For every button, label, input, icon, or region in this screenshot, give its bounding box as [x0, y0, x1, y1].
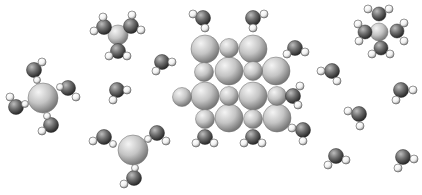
large-ion-sphere	[239, 35, 267, 63]
hydrogen-atom	[72, 93, 80, 101]
oxygen-atom	[196, 11, 211, 26]
hydrogen-atom	[38, 127, 46, 135]
hydrogen-atom	[44, 113, 51, 120]
small-ion-sphere	[173, 88, 192, 107]
hydrogen-atom	[34, 77, 41, 84]
hydrogen-atom	[132, 165, 139, 172]
molecule-scene	[0, 0, 422, 195]
hydrogen-atom	[38, 58, 46, 66]
hydrogen-atom	[409, 86, 417, 94]
hydrogen-atom	[120, 180, 128, 188]
hydrogen-atom	[386, 50, 394, 58]
small-ion-sphere	[220, 87, 239, 106]
large-ion-sphere	[28, 83, 58, 113]
hydrogen-atom	[342, 156, 350, 164]
hydrogen-atom	[260, 10, 268, 18]
hydrogen-atom	[110, 141, 117, 148]
hydrogen-atom	[145, 136, 152, 143]
hydrogen-atom	[109, 96, 117, 104]
hydrogen-atom	[344, 107, 352, 115]
oxygen-atom	[97, 20, 112, 35]
hydrogen-atom	[283, 50, 291, 58]
small-ion-sphere	[268, 87, 287, 106]
large-ion-sphere	[215, 57, 243, 85]
large-ion-sphere	[215, 104, 243, 132]
hydrogen-atom	[105, 52, 113, 60]
hydrogen-atom	[162, 137, 170, 145]
hydrogen-atom	[356, 122, 364, 130]
hydrogen-atom	[258, 139, 266, 147]
oxygen-atom	[394, 83, 409, 98]
small-ion-sphere	[244, 110, 263, 129]
oxygen-atom	[296, 123, 311, 138]
large-ion-sphere	[191, 35, 219, 63]
oxygen-atom	[329, 149, 344, 164]
large-ion-sphere	[370, 23, 388, 41]
hydrogen-atom	[301, 48, 309, 56]
hydrogen-atom	[410, 155, 418, 163]
hydrogen-atom	[201, 24, 209, 32]
large-ion-sphere	[239, 82, 267, 110]
large-ion-sphere	[262, 57, 290, 85]
hydrogen-atom	[392, 96, 400, 104]
small-ion-sphere	[195, 63, 214, 82]
hydrogen-atom	[394, 164, 402, 172]
hydrogen-atom	[210, 139, 218, 147]
hydrogen-atom	[128, 11, 136, 19]
hydrogen-atom	[192, 139, 200, 147]
hydrogen-atom	[400, 19, 408, 27]
large-ion-sphere	[263, 104, 291, 132]
large-ion-sphere	[191, 82, 219, 110]
hydrogen-atom	[152, 67, 160, 75]
hydrogen-atom	[123, 52, 131, 60]
hydrogen-atom	[6, 93, 14, 101]
oxygen-atom	[150, 126, 165, 141]
hydrogen-atom	[354, 20, 362, 28]
hydrogen-atom	[137, 26, 145, 34]
hydrogen-atom	[189, 10, 197, 18]
atoms-layer	[6, 5, 418, 188]
oxygen-atom	[352, 107, 367, 122]
hydrogen-atom	[99, 13, 107, 21]
hydrogen-atom	[89, 137, 97, 145]
hydrogen-atom	[57, 84, 64, 91]
hydrogen-atom	[317, 67, 325, 75]
hydrogen-atom	[400, 37, 408, 45]
oxygen-atom	[396, 150, 411, 165]
hydrogen-atom	[22, 101, 29, 108]
hydrogen-atom	[168, 58, 176, 66]
oxygen-atom	[246, 11, 261, 26]
hydrogen-atom	[364, 5, 372, 13]
oxygen-atom	[372, 7, 386, 21]
hydrogen-atom	[324, 161, 332, 169]
oxygen-atom	[97, 130, 112, 145]
molecular-diagram	[0, 0, 422, 195]
oxygen-atom	[9, 100, 24, 115]
oxygen-atom	[110, 83, 125, 98]
hydrogen-atom	[123, 86, 131, 94]
hydrogen-atom	[249, 24, 257, 32]
hydrogen-atom	[385, 5, 393, 13]
small-ion-sphere	[196, 110, 215, 129]
small-ion-sphere	[220, 39, 239, 58]
oxygen-atom	[325, 64, 340, 79]
hydrogen-atom	[90, 27, 98, 35]
small-ion-sphere	[244, 62, 263, 81]
hydrogen-atom	[299, 137, 307, 145]
hydrogen-atom	[240, 139, 248, 147]
hydrogen-atom	[288, 124, 296, 132]
hydrogen-atom	[296, 82, 304, 90]
hydrogen-atom	[368, 50, 376, 58]
hydrogen-atom	[294, 101, 302, 109]
oxygen-atom	[127, 171, 142, 186]
hydrogen-atom	[355, 37, 363, 45]
hydrogen-atom	[333, 77, 341, 85]
oxygen-atom	[124, 19, 139, 34]
large-ion-sphere	[118, 135, 148, 165]
